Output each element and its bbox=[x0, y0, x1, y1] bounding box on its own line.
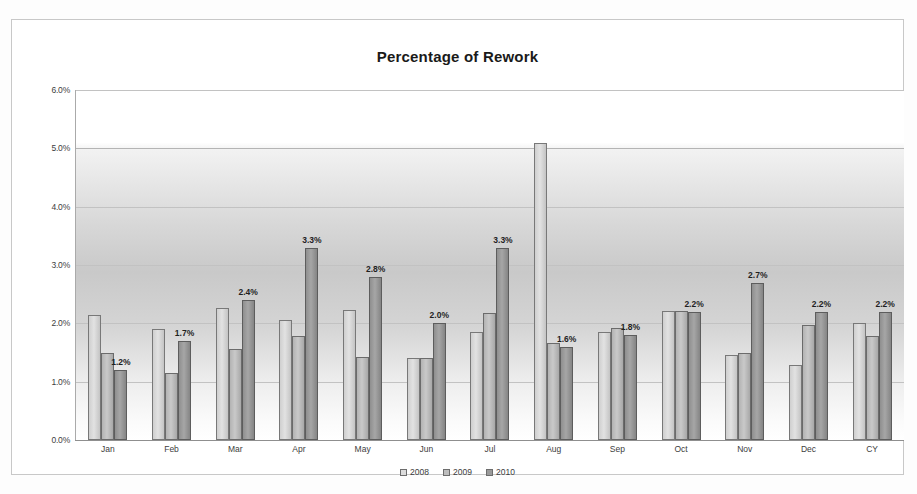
bar[interactable] bbox=[216, 308, 229, 440]
bar-group: 2.0% bbox=[394, 90, 458, 440]
legend-swatch-icon bbox=[400, 469, 407, 476]
bar-data-label: 3.3% bbox=[302, 235, 321, 245]
legend-item[interactable]: 2008 bbox=[400, 467, 429, 477]
bar-group: 2.2% bbox=[777, 90, 841, 440]
bar[interactable] bbox=[165, 373, 178, 440]
x-axis-tick-label: Oct bbox=[674, 444, 687, 454]
bar-data-label: 2.8% bbox=[366, 264, 385, 274]
bar[interactable] bbox=[88, 315, 101, 440]
bar[interactable]: 2.0% bbox=[433, 323, 446, 440]
x-axis-tick-label: Apr bbox=[292, 444, 305, 454]
bar[interactable] bbox=[611, 328, 624, 440]
bar[interactable]: 2.4% bbox=[242, 300, 255, 440]
bar-data-label: 1.7% bbox=[175, 328, 194, 338]
legend-label: 2008 bbox=[410, 467, 429, 477]
bar-group: 2.2% bbox=[649, 90, 713, 440]
bar[interactable] bbox=[292, 336, 305, 440]
bar-data-label: 1.6% bbox=[557, 334, 576, 344]
bar[interactable]: 2.7% bbox=[751, 283, 764, 441]
legend-swatch-icon bbox=[443, 469, 450, 476]
bar-data-label: 2.2% bbox=[684, 299, 703, 309]
bar[interactable]: 3.3% bbox=[305, 248, 318, 441]
bar-data-label: 3.3% bbox=[493, 235, 512, 245]
x-axis-tick-label: Nov bbox=[737, 444, 752, 454]
y-axis-tick-label: 5.0% bbox=[10, 143, 70, 153]
bar-data-label: 1.8% bbox=[621, 322, 640, 332]
x-axis-tick-label: CY bbox=[866, 444, 878, 454]
bar-group: 1.2% bbox=[76, 90, 140, 440]
bar-data-label: 2.2% bbox=[812, 299, 831, 309]
bar[interactable] bbox=[789, 365, 802, 440]
y-axis-tick-label: 3.0% bbox=[10, 260, 70, 270]
legend-label: 2009 bbox=[453, 467, 472, 477]
y-axis-tick-label: 1.0% bbox=[10, 377, 70, 387]
bar[interactable] bbox=[152, 329, 165, 440]
bar-group: 2.7% bbox=[713, 90, 777, 440]
bar-group: 1.6% bbox=[522, 90, 586, 440]
bar[interactable] bbox=[675, 311, 688, 441]
plot-area: 1.2%1.7%2.4%3.3%2.8%2.0%3.3%1.6%1.8%2.2%… bbox=[76, 90, 904, 440]
bar-group: 1.8% bbox=[586, 90, 650, 440]
x-axis-line bbox=[75, 440, 904, 441]
bar[interactable] bbox=[866, 336, 879, 440]
bar[interactable]: 1.2% bbox=[114, 370, 127, 440]
x-axis-tick-label: Jul bbox=[485, 444, 496, 454]
legend-swatch-icon bbox=[486, 469, 493, 476]
x-axis-tick-label: Jan bbox=[101, 444, 115, 454]
legend-item[interactable]: 2009 bbox=[443, 467, 472, 477]
bar-data-label: 2.0% bbox=[430, 310, 449, 320]
x-axis-tick-labels: JanFebMarAprMayJunJulAugSepOctNovDecCY bbox=[76, 444, 904, 462]
bar-data-label: 2.2% bbox=[875, 299, 894, 309]
legend-label: 2010 bbox=[496, 467, 515, 477]
bar[interactable]: 2.2% bbox=[815, 312, 828, 440]
bar[interactable] bbox=[343, 310, 356, 440]
bar-data-label: 1.2% bbox=[111, 357, 130, 367]
bar-group: 2.4% bbox=[203, 90, 267, 440]
chart-frame: Percentage of Rework 6.0%5.0%4.0%3.0%2.0… bbox=[11, 19, 904, 475]
x-axis-tick-label: Feb bbox=[164, 444, 179, 454]
bar[interactable]: 1.7% bbox=[178, 341, 191, 440]
chart-legend: 200820092010 bbox=[12, 467, 903, 477]
bar[interactable]: 1.6% bbox=[560, 347, 573, 440]
bar[interactable]: 2.2% bbox=[879, 312, 892, 440]
y-axis-tick-label: 4.0% bbox=[10, 202, 70, 212]
y-axis-tick-label: 2.0% bbox=[10, 318, 70, 328]
x-axis-tick-label: Mar bbox=[228, 444, 243, 454]
bar-groups: 1.2%1.7%2.4%3.3%2.8%2.0%3.3%1.6%1.8%2.2%… bbox=[76, 90, 904, 440]
bar[interactable] bbox=[598, 332, 611, 440]
bar-group: 1.7% bbox=[140, 90, 204, 440]
bar[interactable] bbox=[547, 343, 560, 440]
x-axis-tick-label: May bbox=[355, 444, 371, 454]
bar[interactable] bbox=[407, 358, 420, 440]
bar[interactable]: 2.8% bbox=[369, 277, 382, 440]
chart-title: Percentage of Rework bbox=[12, 48, 903, 65]
bar[interactable]: 1.8% bbox=[624, 335, 637, 440]
y-axis-tick-label: 6.0% bbox=[10, 85, 70, 95]
bar[interactable] bbox=[534, 143, 547, 441]
bar[interactable]: 2.2% bbox=[688, 312, 701, 440]
bar-group: 3.3% bbox=[458, 90, 522, 440]
x-axis-tick-label: Aug bbox=[546, 444, 561, 454]
bar[interactable] bbox=[483, 313, 496, 440]
bar[interactable] bbox=[229, 349, 242, 440]
x-axis-tick-label: Jun bbox=[419, 444, 433, 454]
bar[interactable] bbox=[470, 332, 483, 440]
bar-group: 2.2% bbox=[840, 90, 904, 440]
legend-item[interactable]: 2010 bbox=[486, 467, 515, 477]
bar[interactable] bbox=[853, 323, 866, 440]
bar-data-label: 2.4% bbox=[239, 287, 258, 297]
y-axis-tick-label: 0.0% bbox=[10, 435, 70, 445]
x-axis-tick-label: Dec bbox=[801, 444, 816, 454]
bar[interactable] bbox=[662, 311, 675, 441]
bar[interactable] bbox=[725, 355, 738, 440]
bar[interactable] bbox=[738, 353, 751, 441]
bar[interactable] bbox=[279, 320, 292, 440]
bar[interactable] bbox=[420, 358, 433, 440]
bar[interactable] bbox=[802, 325, 815, 441]
bar-group: 2.8% bbox=[331, 90, 395, 440]
bar-data-label: 2.7% bbox=[748, 270, 767, 280]
y-axis-tick-labels: 6.0%5.0%4.0%3.0%2.0%1.0%0.0% bbox=[12, 90, 70, 440]
bar[interactable] bbox=[356, 357, 369, 440]
chart-screenshot: Percentage of Rework 6.0%5.0%4.0%3.0%2.0… bbox=[0, 0, 917, 494]
bar[interactable]: 3.3% bbox=[496, 248, 509, 441]
